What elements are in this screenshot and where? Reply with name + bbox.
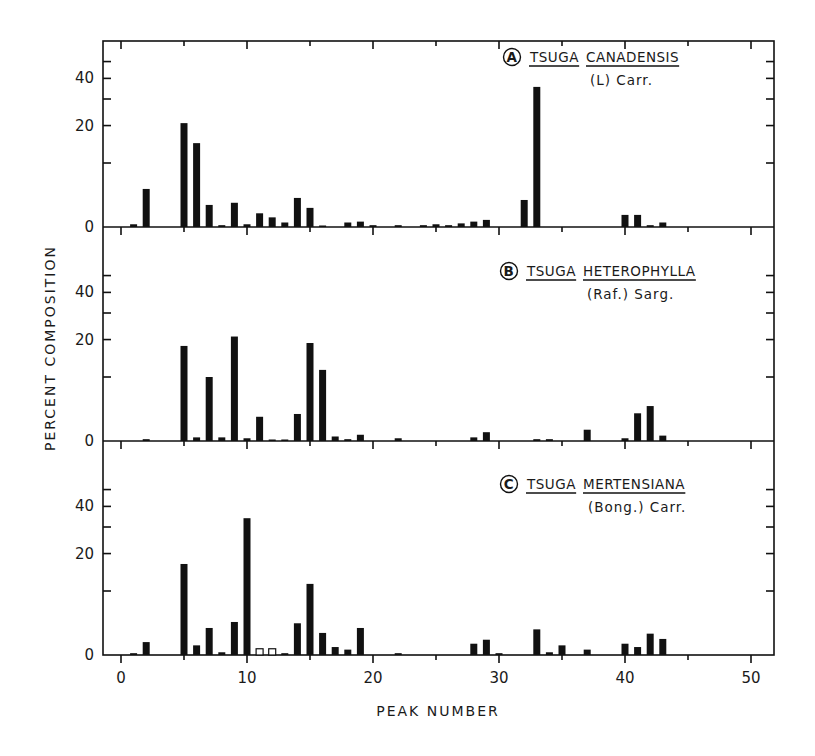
bar: [584, 650, 591, 655]
plot-frame: 020400204002040: [75, 41, 774, 664]
x-tick-label: 40: [615, 669, 634, 687]
y-tick-label: 20: [75, 117, 94, 135]
species-authority: (L) Carr.: [590, 72, 653, 88]
genus-name: TSUGA: [529, 49, 579, 65]
bar: [647, 406, 654, 441]
bar: [470, 644, 477, 655]
bar: [218, 437, 225, 441]
bar: [244, 438, 251, 441]
bar: [319, 370, 326, 441]
bar: [470, 222, 477, 227]
bar: [294, 198, 301, 227]
bar: [445, 225, 452, 227]
bar: [244, 224, 251, 227]
bar: [634, 647, 641, 655]
x-axis: 01020304050: [116, 669, 760, 687]
panel-letter: C: [504, 476, 514, 492]
bar: [533, 439, 540, 441]
species-authority: (Bong.) Carr.: [588, 499, 686, 515]
bar: [269, 440, 276, 442]
x-tick-label: 30: [489, 669, 508, 687]
x-tick-label: 20: [363, 669, 382, 687]
bar: [332, 436, 339, 441]
bar: [319, 226, 326, 228]
bar: [319, 633, 326, 655]
bar: [622, 215, 629, 227]
bar: [622, 438, 629, 441]
y-tick-label: 40: [75, 497, 94, 515]
bar: [357, 435, 364, 441]
y-tick-label: 0: [84, 646, 94, 664]
panel-c: CTSUGAMERTENSIANA(Bong.) Carr.: [130, 476, 686, 656]
bar: [659, 222, 666, 227]
bar: [218, 652, 225, 655]
y-tick-label: 40: [75, 283, 94, 301]
bar: [395, 225, 402, 227]
bar: [483, 640, 490, 655]
bar: [281, 440, 288, 442]
panels: ATSUGACANADENSIS(L) Carr.BTSUGAHETEROPHY…: [130, 49, 696, 656]
bar: [533, 629, 540, 655]
x-axis-title: PEAK NUMBER: [376, 703, 499, 719]
bar: [483, 220, 490, 227]
bar: [231, 203, 238, 227]
bar: [647, 634, 654, 655]
bar: [193, 437, 200, 441]
bar: [659, 436, 666, 441]
open-bar: [269, 649, 276, 655]
species-name: HETEROPHYLLA: [583, 263, 696, 279]
genus-name: TSUGA: [526, 263, 576, 279]
bar: [206, 205, 213, 227]
bar: [294, 414, 301, 441]
bar: [533, 87, 540, 227]
bar: [231, 337, 238, 441]
bar: [496, 653, 503, 655]
bar: [521, 200, 528, 227]
bar: [181, 123, 188, 227]
bar: [256, 417, 263, 441]
bar: [143, 439, 150, 441]
y-tick-label: 0: [84, 218, 94, 236]
y-axis-title: PERCENT COMPOSITION: [42, 245, 58, 451]
panel-letter: B: [504, 263, 515, 279]
bar: [281, 222, 288, 227]
bar: [483, 432, 490, 441]
bar: [193, 143, 200, 227]
bar: [281, 653, 288, 655]
bar: [269, 217, 276, 227]
panel-b: BTSUGAHETEROPHYLLA(Raf.) Sarg.: [143, 263, 696, 442]
bar: [307, 584, 314, 655]
bar: [634, 215, 641, 227]
chromatogram-chart: 020400204002040 ATSUGACANADENSIS(L) Carr…: [0, 0, 815, 756]
x-tick-label: 0: [116, 669, 126, 687]
bar: [143, 189, 150, 227]
bar: [634, 413, 641, 441]
bar: [546, 439, 553, 441]
bar: [395, 653, 402, 655]
bar: [357, 628, 364, 655]
species-name: CANADENSIS: [586, 49, 679, 65]
bar: [206, 628, 213, 655]
bar: [357, 222, 364, 227]
bar: [395, 438, 402, 441]
bar: [294, 623, 301, 655]
panel-a: ATSUGACANADENSIS(L) Carr.: [130, 49, 679, 228]
y-tick-label: 0: [84, 432, 94, 450]
bar: [344, 439, 351, 441]
bar: [130, 224, 137, 227]
bar: [218, 225, 225, 227]
bar: [332, 647, 339, 655]
bar: [344, 222, 351, 227]
bar: [370, 225, 377, 227]
bar: [130, 653, 137, 655]
bar: [659, 639, 666, 655]
y-tick-label: 40: [75, 69, 94, 87]
plot-border: [103, 41, 774, 655]
bar: [244, 518, 251, 655]
bar: [433, 224, 440, 227]
bar: [647, 225, 654, 227]
bar: [420, 225, 427, 227]
bar: [622, 644, 629, 655]
bar: [256, 213, 263, 227]
x-tick-label: 50: [741, 669, 760, 687]
